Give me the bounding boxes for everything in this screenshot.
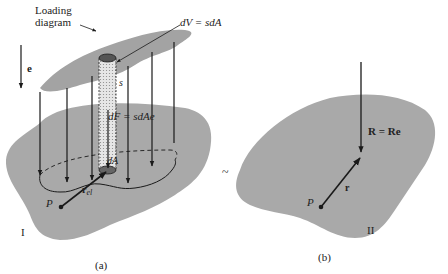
dV-label: dV = sdA bbox=[180, 16, 222, 28]
loading-label-line2: diagram bbox=[35, 16, 71, 28]
loading-label-line1: Loading bbox=[35, 4, 72, 16]
loading-label-pointer bbox=[80, 25, 96, 31]
dF-label: dF = sdAe bbox=[108, 110, 155, 122]
point-P-a bbox=[59, 205, 64, 210]
resultant-R-label: R = Re bbox=[368, 125, 401, 137]
s-label: s bbox=[119, 77, 123, 88]
point-P-b-label: P bbox=[306, 196, 314, 208]
direction-e-label: e bbox=[27, 62, 32, 74]
equivalence-symbol: ~ bbox=[222, 165, 229, 179]
region-I-label: I bbox=[21, 226, 25, 238]
diagram-canvas: Loading diagram e dV = sdA s dF = sdAe d… bbox=[0, 0, 448, 274]
point-P-b bbox=[319, 205, 324, 210]
r-label-b: r bbox=[345, 182, 350, 193]
r-el-label-subscript: el bbox=[86, 188, 93, 197]
caption-b: (b) bbox=[318, 251, 331, 264]
region-II-label: II bbox=[367, 224, 375, 236]
point-P-a-label: P bbox=[45, 197, 53, 209]
caption-a: (a) bbox=[95, 259, 108, 272]
dA-label: dA bbox=[107, 155, 119, 166]
region-II-shape bbox=[236, 94, 435, 238]
